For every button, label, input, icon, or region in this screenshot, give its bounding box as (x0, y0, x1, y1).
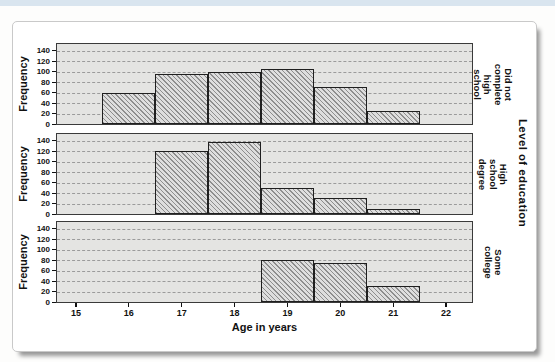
y-tick-mark (52, 249, 56, 250)
x-tick-label: 16 (117, 308, 141, 318)
x-tick-mark (181, 303, 182, 307)
y-axis-title: Frequency (15, 133, 31, 215)
x-tick-mark (75, 303, 76, 307)
y-tick-mark (52, 92, 56, 93)
gridline (57, 229, 472, 230)
x-tick-mark (128, 303, 129, 307)
x-tick-mark (393, 303, 394, 307)
panel-plot-area (56, 133, 473, 215)
y-tick-mark (52, 103, 56, 104)
histogram-bar (367, 286, 420, 302)
y-tick-mark (52, 50, 56, 51)
page-top-strip (0, 0, 555, 6)
histogram-bar (155, 151, 208, 214)
x-tick-label: 18 (223, 308, 247, 318)
histogram-bar (261, 188, 314, 214)
histogram-bar (208, 142, 261, 214)
gridline (57, 162, 472, 163)
panel-variable-title-text: Level of education (517, 119, 529, 227)
panel-category-label: Did not complete high school (476, 43, 510, 125)
y-tick-mark (52, 260, 56, 261)
histogram-chart: Age in years Level of education 02040608… (13, 22, 536, 351)
y-tick-mark (52, 161, 56, 162)
histogram-bar (102, 93, 155, 125)
x-tick-mark (445, 303, 446, 307)
x-tick-label: 20 (328, 308, 352, 318)
gridline (57, 141, 472, 142)
panel-category-label: High school degree (476, 133, 510, 215)
gridline (57, 151, 472, 152)
y-tick-mark (52, 281, 56, 282)
histogram-bar (208, 72, 261, 125)
y-tick-mark (52, 182, 56, 183)
gridline (57, 239, 472, 240)
y-tick-mark (52, 172, 56, 173)
y-axis-title: Frequency (15, 43, 31, 125)
figure-panel: Age in years Level of education 02040608… (12, 21, 537, 352)
panel-plot-area (56, 43, 473, 125)
y-tick-mark (52, 228, 56, 229)
x-tick-label: 15 (64, 308, 88, 318)
x-tick-mark (340, 303, 341, 307)
y-tick-mark (52, 113, 56, 114)
panel-plot-area (56, 221, 473, 303)
x-tick-label: 22 (434, 308, 458, 318)
y-axis-title-text: Frequency (17, 56, 29, 112)
y-axis-title-text: Frequency (17, 234, 29, 290)
y-tick-mark (52, 61, 56, 62)
y-tick-mark (52, 239, 56, 240)
x-axis-title: Age in years (56, 321, 473, 333)
panel-category-label-text: Some college (483, 245, 504, 279)
y-axis-title-text: Frequency (17, 146, 29, 202)
panel-category-label-text: High school degree (478, 157, 509, 191)
gridline (57, 61, 472, 62)
y-tick-mark (52, 71, 56, 72)
panel-category-label: Some college (476, 221, 510, 303)
y-tick-mark (52, 270, 56, 271)
y-tick-mark (52, 140, 56, 141)
y-tick-mark (52, 151, 56, 152)
histogram-bar (314, 87, 367, 124)
y-tick-mark (52, 203, 56, 204)
y-tick-mark (52, 82, 56, 83)
x-tick-mark (234, 303, 235, 307)
gridline (57, 172, 472, 173)
y-tick-mark (52, 193, 56, 194)
gridline (57, 250, 472, 251)
histogram-bar (155, 74, 208, 124)
histogram-bar (314, 263, 367, 302)
histogram-bar (261, 69, 314, 124)
x-tick-label: 19 (275, 308, 299, 318)
gridline (57, 51, 472, 52)
y-tick-mark (52, 291, 56, 292)
gridline (57, 183, 472, 184)
histogram-bar (261, 260, 314, 302)
histogram-bar (367, 209, 420, 214)
y-tick-mark (52, 302, 56, 303)
y-axis-title: Frequency (15, 221, 31, 303)
histogram-bar (314, 198, 367, 214)
y-tick-mark (52, 214, 56, 215)
y-tick-mark (52, 124, 56, 125)
histogram-bar (367, 111, 420, 124)
x-tick-label: 21 (381, 308, 405, 318)
x-tick-mark (287, 303, 288, 307)
x-tick-label: 17 (170, 308, 194, 318)
panel-category-label-text: Did not complete high school (473, 63, 514, 105)
